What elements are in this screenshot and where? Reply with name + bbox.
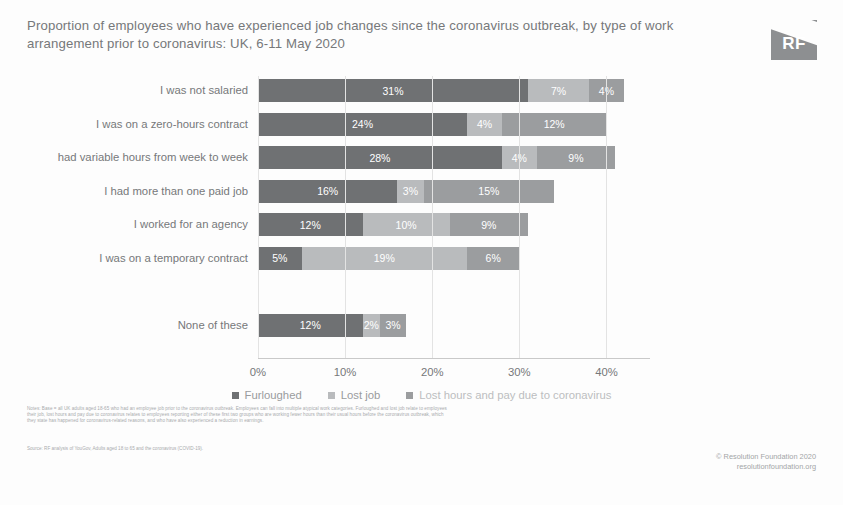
bar-segment-lost-hours-and-pay-due-to-coronavirus: 9% [450,213,528,236]
chart-page: Proportion of employees who have experie… [0,0,843,505]
page-title: Proportion of employees who have experie… [27,17,717,53]
bar-segment-furloughed: 24% [258,113,467,136]
bar-segment-furloughed: 12% [258,314,363,337]
bar-row: 5%19%6% [258,247,519,270]
copyright-line: © Resolution Foundation 2020 [716,452,816,462]
copyright-credit: © Resolution Foundation 2020 resolutionf… [716,452,816,472]
bar-rows: 31%7%4%24%4%12%28%4%9%16%3%15%12%10%9%5%… [258,76,650,358]
x-axis-line [258,358,650,359]
legend-swatch-icon [328,392,335,399]
category-label: I was on a zero-hours contract [18,113,248,136]
category-label: None of these [18,314,248,337]
bar-segment-furloughed: 28% [258,146,502,169]
legend-label: Furloughed [245,389,302,401]
category-label: I had more than one paid job [18,180,248,203]
bar-segment-lost-hours-and-pay-due-to-coronavirus: 3% [380,314,406,337]
bar-segment-furloughed: 16% [258,180,397,203]
legend-label: Lost job [341,389,381,401]
bar-segment-lost-hours-and-pay-due-to-coronavirus: 9% [537,146,615,169]
bar-row: 31%7%4% [258,79,624,102]
chart-header: Proportion of employees who have experie… [27,17,717,53]
legend-swatch-icon [406,392,413,399]
bar-row: 12%10%9% [258,213,528,236]
plot-area: 31%7%4%24%4%12%28%4%9%16%3%15%12%10%9%5%… [258,76,650,358]
category-label: I was not salaried [18,79,248,102]
bar-segment-lost-job: 2% [363,314,380,337]
chart-notes: Notes: Base = all UK adults aged 18-65 w… [27,406,447,425]
website-line: resolutionfoundation.org [716,462,816,472]
gridline-0% [258,76,259,358]
logo-text: RF [771,34,817,54]
bar-row: 16%3%15% [258,180,554,203]
legend-item[interactable]: Lost hours and pay due to coronavirus [406,389,611,401]
chart-source: Source: RF analysis of YouGov, Adults ag… [27,446,447,452]
bar-row: 28%4%9% [258,146,615,169]
legend-item[interactable]: Furloughed [232,389,302,401]
bar-row: 12%2%3% [258,314,406,337]
category-label: I worked for an agency [18,213,248,236]
x-tick-label: 10% [334,366,357,378]
category-label: I was on a temporary contract [18,247,248,270]
bar-segment-lost-job: 10% [363,213,450,236]
bar-segment-lost-job: 7% [528,79,589,102]
x-tick-label: 0% [250,366,266,378]
x-tick-label: 30% [508,366,531,378]
bar-segment-lost-job: 3% [397,180,423,203]
legend-label: Lost hours and pay due to coronavirus [419,389,611,401]
bar-segment-lost-hours-and-pay-due-to-coronavirus: 6% [467,247,519,270]
chart-legend: FurloughedLost jobLost hours and pay due… [0,389,843,401]
gridline-10% [345,76,346,358]
gridline-20% [432,76,433,358]
bar-segment-lost-hours-and-pay-due-to-coronavirus: 12% [502,113,607,136]
bar-segment-furloughed: 12% [258,213,363,236]
gridline-30% [519,76,520,358]
category-label: had variable hours from week to week [18,146,248,169]
x-tick-label: 20% [421,366,444,378]
legend-swatch-icon [232,392,239,399]
x-tick-label: 40% [595,366,618,378]
bar-segment-furloughed: 31% [258,79,528,102]
bar-segment-furloughed: 5% [258,247,302,270]
bar-segment-lost-job: 19% [302,247,468,270]
legend-item[interactable]: Lost job [328,389,381,401]
bar-segment-lost-job: 4% [467,113,502,136]
bar-segment-lost-hours-and-pay-due-to-coronavirus: 15% [424,180,555,203]
gridline-40% [606,76,607,358]
resolution-foundation-logo: RF [771,20,817,60]
